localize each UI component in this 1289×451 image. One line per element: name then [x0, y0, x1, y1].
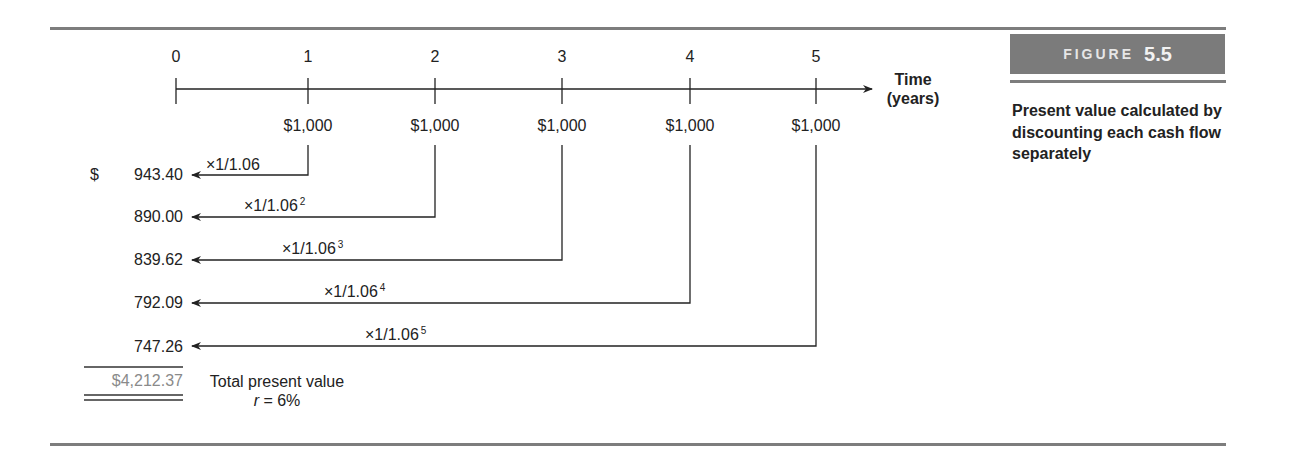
total-label: Total present value [202, 372, 352, 391]
discount-factor-3: ×1/1.063 [282, 239, 343, 258]
axis-title-line2: (years) [878, 89, 948, 108]
tick-label-2: 2 [431, 48, 440, 66]
total-present-value: $4,212.37 [83, 372, 183, 390]
axis-title-line1: Time [878, 70, 948, 89]
axis-ticks [176, 78, 816, 104]
tick-label-5: 5 [812, 48, 821, 66]
rate-label: r = 6% [202, 391, 352, 410]
cash-flow-year-2: $1,000 [411, 117, 460, 135]
cash-flow-year-4: $1,000 [666, 117, 715, 135]
tick-label-3: 3 [558, 48, 567, 66]
cash-flow-year-5: $1,000 [792, 117, 841, 135]
axis-title: Time (years) [878, 70, 948, 108]
present-value-year-1: 943.40 [113, 166, 183, 184]
present-value-year-3: 839.62 [113, 251, 183, 269]
discount-factor-4: ×1/1.064 [324, 282, 385, 301]
tick-label-1: 1 [304, 48, 313, 66]
timeline-diagram [0, 0, 1289, 451]
tick-label-0: 0 [172, 48, 181, 66]
discount-factor-2: ×1/1.062 [244, 196, 305, 215]
discount-factor-5: ×1/1.065 [365, 325, 426, 344]
present-value-year-2: 890.00 [113, 208, 183, 226]
present-value-year-4: 792.09 [113, 294, 183, 312]
cash-flow-year-1: $1,000 [284, 117, 333, 135]
present-value-year-5: 747.26 [113, 338, 183, 356]
total-label-block: Total present value r = 6% [202, 372, 352, 410]
discount-factor-1: ×1/1.06 [206, 155, 262, 174]
cash-flow-year-3: $1,000 [538, 117, 587, 135]
tick-label-4: 4 [686, 48, 695, 66]
currency-symbol: $ [90, 166, 99, 184]
